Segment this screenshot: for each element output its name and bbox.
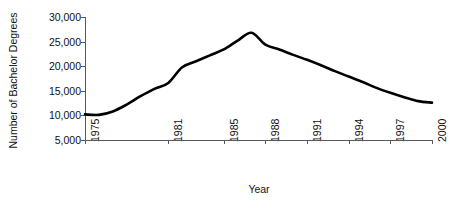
- series-line-0: [85, 33, 432, 115]
- data-series-group: [85, 33, 432, 115]
- plot-area: [0, 0, 453, 209]
- x-axis-title: Year: [85, 183, 433, 195]
- chart-figure: Number of Bachelor Degrees 5,00010,00015…: [0, 0, 453, 209]
- axis-lines: [85, 17, 432, 140]
